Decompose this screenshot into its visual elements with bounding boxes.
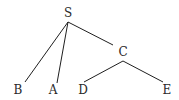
node-c: C [118, 46, 127, 58]
node-e: E [163, 84, 172, 96]
tree-edges [0, 0, 179, 100]
edge-c-e [123, 61, 163, 82]
edge-s-b [25, 22, 68, 82]
edge-s-a [57, 22, 68, 83]
edge-c-d [84, 61, 123, 82]
node-a: A [49, 84, 58, 96]
tree-diagram: S C B A D E [0, 0, 179, 100]
edge-s-c [68, 22, 113, 45]
node-s: S [64, 7, 72, 19]
node-b: B [14, 84, 23, 96]
node-d: D [78, 84, 88, 96]
